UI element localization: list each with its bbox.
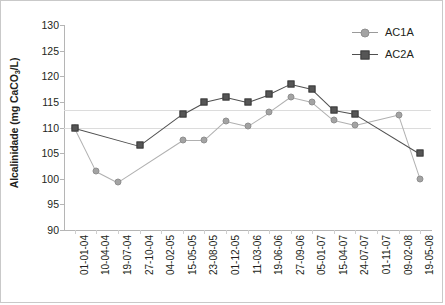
- legend-label-ac1a: AC1A: [385, 26, 414, 38]
- x-axis-tick-mark: [140, 230, 141, 234]
- data-point-ac1a[interactable]: [114, 179, 121, 186]
- data-point-ac1a[interactable]: [244, 122, 251, 129]
- data-point-ac1a[interactable]: [201, 137, 208, 144]
- data-point-ac2a[interactable]: [222, 93, 229, 100]
- series-line-segment: [140, 114, 184, 147]
- legend-label-ac2a: AC2A: [385, 48, 414, 60]
- x-axis-tick-mark: [420, 230, 421, 234]
- data-point-ac1a[interactable]: [93, 168, 100, 175]
- x-axis-tick-mark: [118, 230, 119, 234]
- x-axis-tick-label: 24-07-07: [359, 235, 370, 275]
- data-point-ac1a[interactable]: [330, 116, 337, 123]
- data-point-ac1a[interactable]: [287, 93, 294, 100]
- x-axis-tick-label: 05-01-07: [316, 235, 327, 275]
- x-axis-tick-mark: [334, 230, 335, 234]
- x-axis-tick-mark: [226, 230, 227, 234]
- data-point-ac2a[interactable]: [201, 98, 208, 105]
- chart-figure: Alcalinidade (mg CaCO3/L) 13012512011511…: [0, 0, 443, 303]
- data-point-ac2a[interactable]: [136, 142, 143, 149]
- x-axis-tick-mark: [312, 230, 313, 234]
- x-axis-tick-mark: [399, 230, 400, 234]
- x-axis-tick-label: 19-07-04: [122, 235, 133, 275]
- x-axis-tick-label: 01-11-07: [381, 235, 392, 274]
- data-point-ac2a[interactable]: [71, 124, 78, 131]
- x-axis-tick-label: 15-05-05: [187, 235, 198, 275]
- reference-line: [64, 110, 431, 111]
- data-point-ac2a[interactable]: [244, 98, 251, 105]
- data-point-ac2a[interactable]: [352, 110, 359, 117]
- x-axis-tick-label: 27-09-06: [295, 235, 306, 275]
- series-line-segment: [355, 115, 398, 126]
- data-point-ac1a[interactable]: [352, 121, 359, 128]
- x-axis-tick-label: 01-01-04: [79, 235, 90, 275]
- y-axis-tick-marks: [19, 25, 65, 230]
- series-line-segment: [118, 140, 183, 183]
- x-axis-tick-label: 27-10-04: [144, 235, 155, 275]
- data-point-ac2a[interactable]: [309, 86, 316, 93]
- data-point-ac1a[interactable]: [222, 117, 229, 124]
- data-point-ac2a[interactable]: [287, 80, 294, 87]
- series-line-segment: [75, 128, 140, 147]
- x-axis-tick-mark: [291, 230, 292, 234]
- legend-item-ac2a[interactable]: AC2A: [352, 43, 430, 65]
- x-axis-tick-mark: [183, 230, 184, 234]
- data-point-ac2a[interactable]: [179, 110, 186, 117]
- data-point-ac1a[interactable]: [179, 137, 186, 144]
- x-axis-tick-mark: [204, 230, 205, 234]
- legend-line-ac2a: [352, 54, 378, 55]
- x-axis-tick-mark: [355, 230, 356, 234]
- series-line-segment: [355, 114, 420, 154]
- x-axis-tick-label: 04-02-05: [165, 235, 176, 275]
- x-axis-tick-label: 11-03-06: [252, 235, 263, 274]
- data-point-ac2a[interactable]: [417, 150, 424, 157]
- x-axis-tick-label: 10-04-04: [100, 235, 111, 275]
- legend-marker-square-icon: [361, 50, 370, 59]
- legend-line-ac1a: [352, 32, 378, 33]
- x-axis-tick-mark: [75, 230, 76, 234]
- x-axis-tick-mark: [248, 230, 249, 234]
- x-axis-tick-label: 09-02-08: [403, 235, 414, 275]
- chart-legend: AC1A AC2A: [352, 21, 430, 65]
- data-point-ac1a[interactable]: [395, 111, 402, 118]
- data-point-ac1a[interactable]: [266, 109, 273, 116]
- data-point-ac1a[interactable]: [417, 175, 424, 182]
- x-axis-tick-label: 23-08-05: [208, 235, 219, 275]
- legend-item-ac1a[interactable]: AC1A: [352, 21, 430, 43]
- x-axis-tick-label: 01-12-05: [230, 235, 241, 275]
- x-axis-tick-label: 15-04-07: [338, 235, 349, 275]
- x-axis-tick-mark: [161, 230, 162, 234]
- x-axis-tick-label: 19-05-08: [424, 235, 435, 275]
- x-axis-tick-mark: [377, 230, 378, 234]
- data-point-ac1a[interactable]: [309, 98, 316, 105]
- x-axis-tick-mark: [96, 230, 97, 234]
- data-point-ac2a[interactable]: [330, 106, 337, 113]
- x-axis-tick-label: 19-06-06: [273, 235, 284, 275]
- x-axis-tick-mark: [269, 230, 270, 234]
- legend-marker-circle-icon: [361, 28, 370, 37]
- data-point-ac2a[interactable]: [266, 91, 273, 98]
